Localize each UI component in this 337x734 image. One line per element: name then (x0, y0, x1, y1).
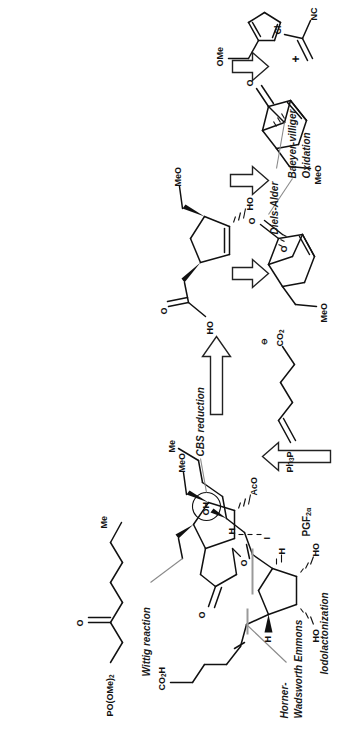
atom-pgf2a-co2h: CO2H (156, 666, 167, 690)
atom-diene-ome: OMe (214, 46, 224, 66)
dienophile-skeleton (284, 20, 312, 60)
atom-iodolactone-ring-o: O (238, 559, 248, 566)
diene-skeleton (228, 12, 280, 58)
atom-hydroxyacid-ho: HO (204, 321, 214, 335)
label-horner-wadsworth-line2: Wadsworth Emmons (292, 619, 303, 718)
atom-pgf2a-h-side: H (226, 528, 236, 535)
label-baeyer-villiger-line2: Oxidation (300, 132, 311, 178)
retrosynthesis-canvas: PO(OMe)2 Me O O O I AcO MeO O HO HO MeO … (0, 0, 337, 734)
atom-hydroxyacid-o: O (158, 307, 168, 314)
atom-hydroxyacid-meo: MeO (172, 166, 182, 186)
atom-iodolactone-iodine: I (261, 536, 271, 539)
atom-dienophile-nc: NC (308, 7, 318, 20)
label-diels-alder: Diels-Alder (268, 181, 279, 234)
atom-phosphonate-o: O (74, 619, 84, 626)
plus-sign: + (288, 55, 302, 62)
arrow-lactone2-to-ketone (230, 166, 268, 194)
atom-dienophile-cl: Cl (272, 25, 282, 34)
label-iodolactonization: Iodolactonization (318, 592, 329, 674)
atom-bicycliclactone-meo: MeO (318, 302, 328, 322)
arrow-ylide-up (262, 442, 330, 470)
atom-ylide-carboxylate: CO2 (274, 329, 285, 346)
atom-iodolactone-meo: MeO (176, 452, 186, 472)
arrow-lactone-to-acid (202, 336, 230, 414)
hydroxyacid-skeleton (167, 186, 245, 316)
ylide-skeleton (278, 346, 295, 442)
atom-hydroxyacid-ring-ho: HO (244, 197, 254, 211)
atom-pgf2a-oh: OH (200, 502, 210, 516)
atom-pgf2a-h-left: H (262, 636, 272, 643)
atom-ylide-charge: ⊖ (259, 337, 268, 344)
atom-iodolactone-aco: AcO (248, 476, 258, 495)
atom-bicyclicketone-o: O (244, 79, 254, 86)
label-target-pgf2a: PGF2α (300, 507, 313, 536)
atom-ylide-ph3p: Ph3P (284, 451, 295, 472)
atom-bicycliclactone-carbonyl-o: O (246, 217, 256, 224)
label-cbs-reduction: CBS reduction (194, 387, 205, 456)
atom-phosphonate-me: Me (98, 515, 108, 528)
atom-bicyclicketone-meo: MeO (312, 164, 322, 184)
atom-pgf2a-me: Me (166, 439, 176, 452)
label-wittig-reaction: Wittig reaction (140, 607, 151, 676)
phosphonate-skeleton (88, 522, 122, 662)
label-horner-wadsworth-line1: Horner- (278, 682, 289, 718)
atom-iodolactone-carbonyl-o: O (196, 611, 206, 618)
diagram-page: PO(OMe)2 Me O O O I AcO MeO O HO HO MeO … (0, 0, 337, 734)
atom-pgf2a-ho-right: HO (310, 543, 320, 557)
atom-pgf2a-h-right: H (276, 548, 286, 555)
arrow-acid-to-lactone2 (232, 259, 268, 287)
label-baeyer-villiger-line1: Baeyer-villiger (286, 109, 297, 178)
atom-bicycliclactone-ring-o: O (278, 245, 288, 252)
atom-phosphonate-po: PO(OMe)2 (104, 674, 115, 716)
